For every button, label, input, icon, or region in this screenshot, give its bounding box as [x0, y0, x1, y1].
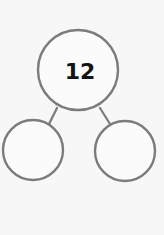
part-circle-right[interactable]: [95, 121, 155, 181]
whole-value: 12: [65, 59, 96, 84]
number-bond-diagram: 12: [0, 0, 164, 235]
connector-right: [100, 108, 110, 124]
whole-node: 12: [38, 30, 118, 110]
part-node-left[interactable]: [3, 120, 63, 180]
part-circle-left[interactable]: [3, 120, 63, 180]
part-node-right[interactable]: [95, 121, 155, 181]
connector-left: [49, 108, 57, 124]
